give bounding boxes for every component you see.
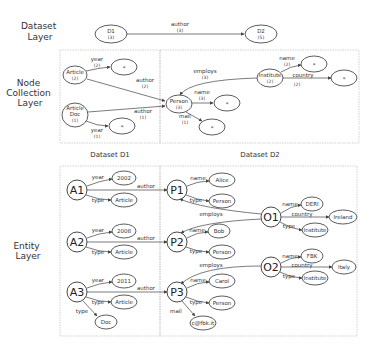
value-label: 2002 <box>117 175 131 181</box>
nc-person-count: (3) <box>176 105 183 110</box>
value-label: 2008 <box>117 228 131 234</box>
value-label: Institute <box>304 227 327 233</box>
value-label: Person <box>213 249 232 255</box>
dataset-d2-label: Dataset D2 <box>240 151 279 159</box>
author-edge-label: author <box>171 21 190 27</box>
edge-label: employs <box>193 68 216 75</box>
node-collection-box-d2 <box>160 50 359 143</box>
a2-label: A2 <box>70 236 85 249</box>
d1-count: (3) <box>108 35 115 40</box>
edge-label: year <box>92 174 105 181</box>
value-label: Person <box>213 300 232 306</box>
edge-label: mail <box>179 113 191 119</box>
p2-label: P2 <box>170 236 184 249</box>
a1-year-edge <box>87 179 112 186</box>
nc-article-count: (2) <box>72 76 79 81</box>
edge-label: type <box>283 273 296 280</box>
wildcard-label: * <box>211 125 214 131</box>
edge-label: name <box>279 55 295 61</box>
edge-label: type <box>92 299 105 306</box>
value-label: 2011 <box>117 278 131 284</box>
wildcard-label: * <box>226 101 229 107</box>
edge-label: author <box>134 108 153 114</box>
edge-label: name <box>190 175 206 181</box>
a3-label: A3 <box>70 286 85 299</box>
nc-article-label: Article <box>66 69 84 75</box>
nc-person-label: Person <box>170 98 189 104</box>
node-collection-layer: Article (2) * year (2) Article Doc (1) *… <box>62 55 357 139</box>
wildcard-label: * <box>121 124 124 130</box>
o1-label: O1 <box>263 211 279 224</box>
value-label: Alice <box>215 177 229 183</box>
d2-label: D2 <box>257 28 265 34</box>
edge-count: (3) <box>199 96 206 101</box>
layer-label-dataset: Dataset Layer <box>21 21 59 42</box>
edge-label: country <box>292 72 314 79</box>
value-label: Article <box>115 299 133 305</box>
wildcard-label: * <box>313 62 316 68</box>
p1-label: P1 <box>170 184 184 197</box>
edge-label: author <box>137 235 156 241</box>
nc-article-doc-label2: Doc <box>70 111 81 117</box>
value-label: Person <box>213 198 232 204</box>
edge-count: (2) <box>284 62 291 67</box>
edge-label: name <box>189 227 205 233</box>
wildcard-label: * <box>343 76 346 82</box>
value-label: Ireland <box>333 214 352 220</box>
p1-name-edge <box>187 181 209 186</box>
wildcard-label: * <box>123 65 126 71</box>
value-label: Carol <box>215 278 230 284</box>
edge-label: mail <box>170 308 182 314</box>
value-label: Italy <box>338 264 351 271</box>
edge-label: year <box>91 56 104 63</box>
value-label: DERI <box>305 201 319 207</box>
edge-label: employs <box>199 211 222 218</box>
edge-label: type <box>76 308 89 315</box>
edge-count: (3) <box>202 75 209 80</box>
edge-label: country <box>291 211 313 218</box>
value-label: Article <box>115 249 133 255</box>
edge-count: (1) <box>94 134 101 139</box>
nc-articledoc-year-edge <box>86 121 108 126</box>
p3-label: P3 <box>170 286 184 299</box>
edge-label: year <box>91 127 104 134</box>
edge-label: name <box>282 253 298 259</box>
edge-label: year <box>92 277 105 284</box>
edge-count: (2) <box>294 82 301 87</box>
nc-article-doc-count: (1) <box>72 118 79 123</box>
value-label: Bob <box>214 228 225 234</box>
edge-label: name <box>190 277 206 283</box>
edge-count: (1) <box>140 115 147 120</box>
nc-articledoc-author-edge <box>88 106 165 112</box>
d1-label: D1 <box>107 28 115 34</box>
o2-label: O2 <box>263 261 279 274</box>
dataset-d1-label: Dataset D1 <box>90 151 129 159</box>
layer-label-node-collection: Node Collection Layer <box>6 78 53 108</box>
diagram-canvas: Dataset Layer Node Collection Layer Enti… <box>0 0 376 351</box>
edge-label: type <box>190 248 203 255</box>
value-label: FBK <box>307 253 318 259</box>
edge-label: author <box>137 285 156 291</box>
edge-label: year <box>92 227 105 234</box>
edge-label: author <box>136 77 155 83</box>
edge-count: (2) <box>142 84 149 89</box>
edge-label: name <box>282 201 298 207</box>
value-label: c@fbk.it <box>192 320 215 326</box>
layer-label-entity: Entity Layer <box>13 241 42 261</box>
edge-count: (1) <box>182 120 189 125</box>
edge-label: type <box>190 299 203 306</box>
value-label: Article <box>115 197 133 203</box>
entity-layer: A1 2002 year Article type author A2 2008… <box>67 171 357 330</box>
nc-institute-employs-edge <box>180 78 257 95</box>
nc-institute-label: Institute <box>259 72 282 78</box>
d2-count: (5) <box>258 35 265 40</box>
edge-label: country <box>291 262 313 269</box>
edge-label: name <box>194 89 210 95</box>
nc-institute-count: (2) <box>267 79 274 84</box>
value-label: Institute <box>304 275 327 281</box>
edge-label: type <box>92 197 105 204</box>
edge-count: (2) <box>94 63 101 68</box>
dataset-layer: D1 (3) D2 (5) author (3) <box>95 21 277 43</box>
edge-label: type <box>92 249 105 256</box>
edge-label: employs <box>199 262 222 269</box>
